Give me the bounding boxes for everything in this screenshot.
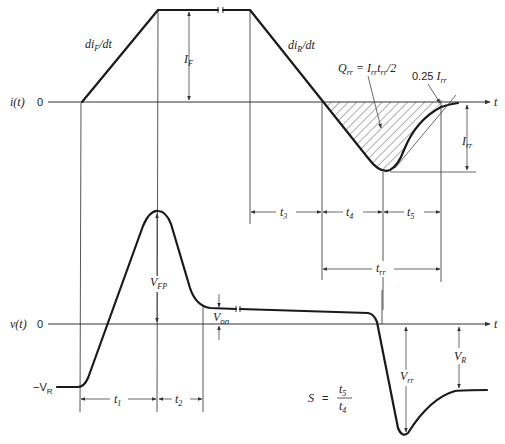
- voltage-axis-label: v(t): [10, 317, 27, 331]
- reverse-recovery-diagram: i(t) 0 t IF diF/dt diR/dt Qrr = Irrtrr/2…: [0, 0, 505, 444]
- rise-slope-label: diF/dt: [85, 37, 113, 53]
- softness-factor-formula: S = t5 t4: [308, 382, 352, 415]
- voltage-t-axis-label: t: [494, 317, 498, 331]
- neg-reverse-voltage-label: −VR: [33, 381, 53, 396]
- voltage-zero-label: 0: [37, 318, 43, 330]
- quarter-irr-pointer: [428, 84, 440, 103]
- guide-line-t1-start: [80, 103, 81, 412]
- current-t-axis-label: t: [494, 95, 498, 109]
- fall-slope-label: diR/dt: [288, 38, 316, 54]
- current-zero-label: 0: [37, 96, 43, 108]
- reverse-recovery-charge-area: [322, 102, 441, 171]
- recovery-charge-label: Qrr = Irrtrr/2: [338, 61, 396, 77]
- forward-current-label: IF: [183, 52, 193, 68]
- softness-denominator: t4: [339, 399, 346, 415]
- current-axis-label: i(t): [10, 95, 25, 109]
- softness-lhs: S: [308, 391, 314, 405]
- quarter-irr-label: 0.25 Irr: [412, 69, 448, 85]
- softness-equals: =: [322, 392, 328, 404]
- on-voltage-label: Von: [213, 310, 230, 326]
- softness-numerator: t5: [339, 382, 346, 398]
